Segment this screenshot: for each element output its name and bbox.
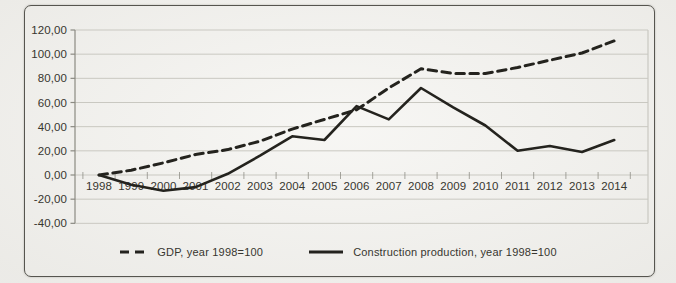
chart-legend: GDP, year 1998=100 Construction producti… xyxy=(24,241,653,263)
y-axis-label: 40,00 xyxy=(38,121,67,133)
y-axis-label: -20,00 xyxy=(34,193,67,205)
legend-item-gdp: GDP, year 1998=100 xyxy=(120,246,263,258)
legend-label-gdp: GDP, year 1998=100 xyxy=(157,246,263,258)
y-axis-label: 60,00 xyxy=(38,97,67,109)
y-axis-label: 120,00 xyxy=(31,24,67,36)
y-axis-label: 80,00 xyxy=(38,72,67,84)
x-axis-label: 2006 xyxy=(344,180,370,192)
legend-item-construction: Construction production, year 1998=100 xyxy=(309,246,557,258)
legend-label-construction: Construction production, year 1998=100 xyxy=(353,246,557,258)
construction-solid-line-swatch xyxy=(309,249,343,255)
x-axis-label: 2009 xyxy=(440,180,466,192)
scanned-figure: 120,00100,0080,0060,0040,0020,000,00-20,… xyxy=(0,0,676,283)
y-axis-label: 0,00 xyxy=(44,169,67,181)
x-axis-label: 2012 xyxy=(537,180,563,192)
x-axis-label: 2004 xyxy=(279,180,305,192)
y-axis-label: 20,00 xyxy=(38,145,67,157)
x-axis-label: 2003 xyxy=(247,180,273,192)
x-axis-label: 2011 xyxy=(505,180,530,192)
x-axis-label: 2008 xyxy=(408,180,434,192)
x-axis-label: 2002 xyxy=(215,180,241,192)
x-axis-label: 2010 xyxy=(472,180,498,192)
y-axis-label: 100,00 xyxy=(31,48,67,60)
x-axis-label: 2014 xyxy=(601,180,627,192)
x-axis-label: 1998 xyxy=(86,180,112,192)
x-axis-label: 2007 xyxy=(376,180,402,192)
x-axis-label: 2005 xyxy=(311,180,337,192)
gdp-dashed-line-swatch xyxy=(120,249,147,255)
y-axis-label: -40,00 xyxy=(34,217,67,229)
x-axis-label: 2013 xyxy=(569,180,595,192)
